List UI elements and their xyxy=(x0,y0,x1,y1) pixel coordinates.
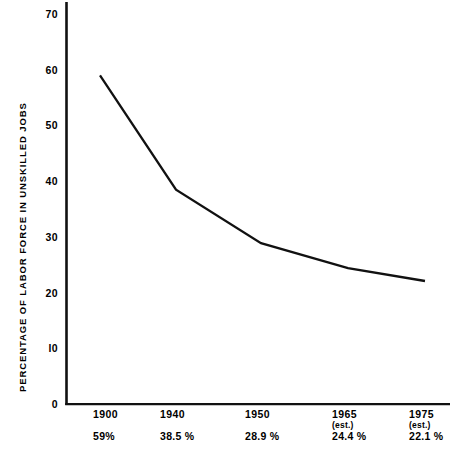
chart-figure: PERCENTAGE OF LABOR FORCE IN UNSKILLED J… xyxy=(0,0,464,449)
x-tick-label: 1975(est.) xyxy=(409,409,464,430)
x-tick-year: 1975 xyxy=(409,409,464,420)
data-value-label: 22.1 % xyxy=(409,431,464,442)
x-axis-tick-labels: 190059%194038.5 %195028.9 %1965(est.)24.… xyxy=(0,0,464,449)
x-tick-estimate-note: (est.) xyxy=(409,420,464,430)
